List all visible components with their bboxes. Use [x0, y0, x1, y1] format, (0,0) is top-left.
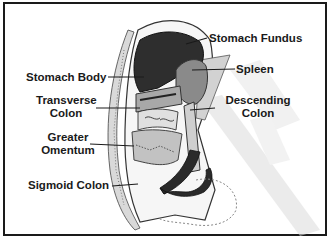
label-transverse-colon: Transverse Colon	[36, 94, 96, 120]
label-descending-colon: Descending Colon	[218, 94, 298, 120]
label-sigmoid-colon: Sigmoid Colon	[28, 179, 109, 192]
label-spleen: Spleen	[236, 63, 274, 76]
label-stomach-body: Stomach Body	[26, 71, 107, 84]
label-greater-omentum: Greater Omentum	[36, 131, 100, 157]
small-intestine	[138, 109, 178, 130]
label-stomach-fundus: Stomach Fundus	[209, 32, 302, 45]
